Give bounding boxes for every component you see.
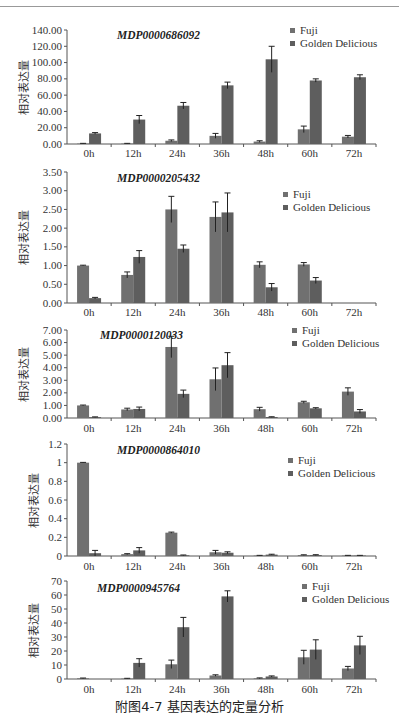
y-tick-label: 120.00	[32, 40, 63, 52]
y-tick-label: 60	[51, 589, 63, 601]
bar-golden-delicious	[310, 408, 322, 418]
x-tick-label: 0h	[84, 683, 96, 695]
y-tick-label: 20	[51, 645, 63, 657]
legend-swatch-golden-delicious	[292, 341, 297, 346]
x-tick-label: 36h	[213, 683, 230, 695]
x-tick-label: 60h	[302, 683, 319, 695]
legend-swatch-golden-delicious	[290, 41, 295, 46]
chart-panel-4: 00.20.40.60.811.2相对表达量MDP00008640100h12h…	[27, 438, 376, 573]
legend-swatch-golden-delicious	[302, 597, 307, 602]
x-tick-label: 72h	[346, 147, 363, 159]
bar-fuji	[77, 463, 89, 556]
x-tick-label: 48h	[257, 683, 274, 695]
y-tick-label: 3.00	[43, 374, 63, 386]
x-tick-label: 12h	[125, 147, 142, 159]
figure-caption: 附图4-7 基因表达的定量分析	[0, 696, 399, 715]
y-axis-label: 相对表达量	[17, 60, 30, 115]
x-tick-label: 0h	[84, 422, 96, 434]
bar-golden-delicious	[177, 106, 189, 144]
x-tick-label: 12h	[125, 560, 142, 572]
legend-label: Golden Delicious	[302, 337, 379, 349]
y-tick-label: 1.50	[43, 240, 63, 252]
y-tick-label: 1.00	[43, 259, 63, 271]
bar-fuji	[165, 533, 177, 556]
bar-fuji	[121, 275, 133, 303]
y-tick-label: 0.8	[48, 475, 62, 487]
x-tick-label: 24h	[169, 306, 186, 318]
bar-fuji	[298, 402, 310, 418]
y-tick-label: 3.50	[43, 166, 63, 178]
legend-label: Golden Delicious	[300, 37, 377, 49]
y-tick-label: 60.00	[37, 89, 62, 101]
bar-golden-delicious	[177, 249, 189, 303]
y-tick-label: 140.00	[32, 24, 63, 36]
x-tick-label: 36h	[213, 147, 230, 159]
y-tick-label: 40.00	[37, 105, 62, 117]
legend-label: Fuji	[302, 324, 320, 336]
legend-label: Fuji	[298, 454, 316, 466]
y-tick-label: 0.00	[43, 138, 63, 150]
bar-fuji	[298, 264, 310, 303]
legend-label: Golden Delicious	[312, 593, 389, 605]
legend-label: Fuji	[312, 580, 330, 592]
y-tick-label: 20.00	[37, 121, 62, 133]
legend-label: Golden Delicious	[293, 201, 370, 213]
y-tick-label: 70	[51, 575, 63, 587]
x-tick-label: 24h	[169, 560, 186, 572]
bar-fuji	[254, 265, 266, 303]
x-tick-label: 36h	[213, 560, 230, 572]
y-axis-label: 相对表达量	[17, 210, 30, 265]
bar-golden-delicious	[222, 85, 234, 144]
bar-golden-delicious	[89, 133, 101, 144]
y-tick-label: 0	[57, 550, 63, 562]
y-tick-label: 7.00	[43, 324, 63, 336]
y-tick-label: 5.00	[43, 349, 63, 361]
bar-fuji	[77, 405, 89, 418]
y-tick-label: 50	[51, 603, 63, 615]
y-tick-label: 2.00	[43, 222, 63, 234]
chart-title: MDP0000945764	[96, 582, 180, 594]
x-tick-label: 60h	[302, 306, 319, 318]
x-tick-label: 48h	[257, 147, 274, 159]
bar-fuji	[165, 209, 177, 303]
x-tick-label: 60h	[302, 422, 319, 434]
x-tick-label: 48h	[257, 306, 274, 318]
bar-golden-delicious	[133, 257, 145, 303]
y-tick-label: 0.00	[43, 297, 63, 309]
x-tick-label: 60h	[302, 560, 319, 572]
x-tick-label: 60h	[302, 147, 319, 159]
x-tick-label: 0h	[84, 147, 96, 159]
y-axis-label: 相对表达量	[17, 347, 30, 402]
y-tick-label: 0.00	[43, 412, 63, 424]
chart-panel-3: 0.001.002.003.004.005.006.007.00相对表达量MDP…	[17, 324, 379, 435]
legend-label: Golden Delicious	[298, 467, 375, 479]
y-tick-label: 1	[57, 456, 63, 468]
y-tick-label: 100.00	[32, 56, 63, 68]
x-tick-label: 0h	[84, 306, 96, 318]
chart-title: MDP0000686092	[116, 29, 200, 41]
x-tick-label: 36h	[213, 422, 230, 434]
y-tick-label: 10	[51, 659, 63, 671]
bar-golden-delicious	[310, 80, 322, 144]
x-tick-label: 36h	[213, 306, 230, 318]
y-tick-label: 2.00	[43, 386, 63, 398]
x-tick-label: 72h	[346, 683, 363, 695]
chart-panel-1: 0.0020.0040.0060.0080.00100.00120.00140.…	[17, 24, 377, 160]
legend-label: Fuji	[300, 24, 318, 36]
x-tick-label: 24h	[169, 422, 186, 434]
chart-title: MDP0000864010	[116, 444, 200, 456]
y-axis-label: 相对表达量	[27, 603, 40, 658]
x-tick-label: 12h	[125, 422, 142, 434]
legend-swatch-fuji	[288, 458, 293, 463]
charts-svg: 0.0020.0040.0060.0080.00100.00120.00140.…	[0, 0, 399, 728]
legend-label: Fuji	[293, 188, 311, 200]
bar-golden-delicious	[310, 281, 322, 303]
x-tick-label: 72h	[346, 306, 363, 318]
y-tick-label: 0.50	[43, 278, 63, 290]
y-tick-label: 3.00	[43, 184, 63, 196]
bar-golden-delicious	[354, 77, 366, 144]
y-axis-label: 相对表达量	[27, 473, 40, 528]
y-tick-label: 0.2	[48, 531, 62, 543]
legend-swatch-golden-delicious	[288, 471, 293, 476]
y-tick-label: 1.2	[48, 438, 62, 450]
